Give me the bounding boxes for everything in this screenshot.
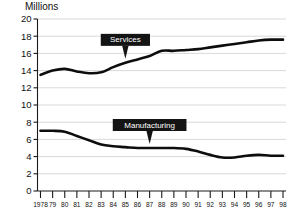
callout-label-services: Services [110, 35, 141, 44]
x-tick-label: 95 [243, 201, 251, 208]
y-tick-label: 18 [21, 31, 32, 42]
x-tick-label: 86 [134, 201, 142, 208]
series-lines [41, 40, 284, 158]
y-axis-ticks: 02468101214161820 [21, 13, 38, 196]
x-tick-label: 84 [110, 201, 118, 208]
y-tick-label: 0 [26, 185, 31, 196]
x-tick-label: 1978 [33, 201, 48, 208]
x-tick-label: 89 [170, 201, 178, 208]
x-axis-ticks: 1978798081828384858687888990919293949596… [33, 191, 287, 208]
x-tick-label: 97 [267, 201, 275, 208]
y-tick-label: 10 [21, 99, 32, 110]
x-tick-label: 91 [194, 201, 202, 208]
employment-line-chart: Millions 02468101214161820 1978798081828… [0, 0, 292, 219]
x-tick-label: 81 [73, 201, 81, 208]
x-tick-label: 93 [219, 201, 227, 208]
y-tick-label: 6 [26, 134, 31, 145]
x-tick-label: 90 [182, 201, 190, 208]
x-tick-label: 98 [279, 201, 287, 208]
y-tick-label: 20 [21, 13, 32, 24]
y-tick-label: 2 [26, 168, 31, 179]
x-tick-label: 85 [122, 201, 130, 208]
y-tick-label: 8 [26, 117, 31, 128]
callout-pointer-manufacturing [146, 131, 152, 144]
series-line-services [41, 40, 284, 75]
x-tick-label: 87 [146, 201, 154, 208]
series-line-manufacturing [41, 131, 284, 158]
x-tick-label: 80 [61, 201, 69, 208]
callout-pointer-services [122, 46, 128, 59]
callout-label-manufacturing: Manufacturing [124, 121, 175, 130]
x-tick-label: 79 [49, 201, 57, 208]
x-tick-label: 96 [255, 201, 263, 208]
x-tick-label: 83 [97, 201, 105, 208]
y-tick-label: 16 [21, 48, 32, 59]
y-tick-label: 4 [26, 151, 31, 162]
x-tick-label: 82 [85, 201, 93, 208]
plot-area: 02468101214161820 1978798081828384858687… [0, 0, 292, 219]
y-tick-label: 12 [21, 82, 32, 93]
x-tick-label: 94 [231, 201, 239, 208]
x-tick-label: 92 [207, 201, 215, 208]
x-tick-label: 88 [158, 201, 166, 208]
y-tick-label: 14 [21, 65, 32, 76]
